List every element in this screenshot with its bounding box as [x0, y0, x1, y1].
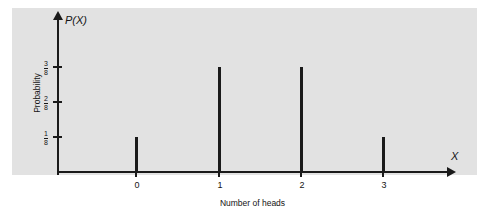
- y-axis-line: [57, 18, 59, 175]
- x-axis-title: Number of heads: [57, 198, 448, 208]
- y-tick-label-2-8: 2 8: [26, 95, 48, 112]
- y-tick-label-3-8: 3 8: [26, 60, 48, 77]
- y-tick-mark-1-8: [53, 136, 62, 138]
- y-tick-1-8-denominator: 8: [44, 139, 48, 146]
- spike-x-0: [135, 137, 138, 172]
- y-tick-2-8-denominator: 8: [44, 104, 48, 111]
- y-tick-3-8-denominator: 8: [44, 69, 48, 76]
- y-axis-arrow-icon: [53, 11, 63, 20]
- y-tick-label-1-8: 1 8: [26, 130, 48, 147]
- spike-x-1: [218, 67, 221, 172]
- x-tick-label-3: 3: [372, 180, 396, 190]
- x-tick-label-2: 2: [290, 180, 314, 190]
- y-tick-mark-3-8: [53, 66, 62, 68]
- y-tick-2-8-numerator: 2: [44, 95, 48, 102]
- y-tick-3-8-numerator: 3: [44, 60, 48, 67]
- x-tick-label-1: 1: [208, 180, 232, 190]
- y-axis-symbol-label: P(X): [65, 14, 87, 26]
- x-tick-label-0: 0: [125, 180, 149, 190]
- x-axis-line: [57, 171, 448, 173]
- y-tick-1-8-numerator: 1: [44, 130, 48, 137]
- x-axis-symbol-label: X: [451, 150, 458, 162]
- plot-panel: [12, 8, 477, 175]
- spike-x-2: [300, 67, 303, 172]
- spike-x-3: [382, 137, 385, 172]
- probability-distribution-chart: P(X) X Probability Number of heads 3 8 2…: [0, 0, 496, 222]
- y-tick-mark-2-8: [53, 101, 62, 103]
- x-axis-arrow-icon: [447, 167, 456, 177]
